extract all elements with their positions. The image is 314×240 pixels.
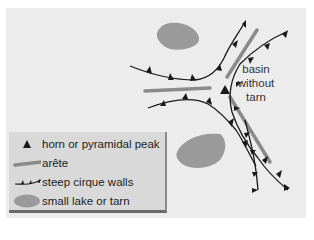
lake-icon: [13, 193, 41, 209]
legend-label: steep cirque walls: [42, 176, 133, 188]
arete-line-icon: [13, 155, 41, 171]
legend-label: small lake or tarn: [42, 195, 130, 207]
legend-item-lake: small lake or tarn: [9, 192, 167, 210]
horn-peak-icon: [220, 85, 230, 94]
legend-item-cirque: steep cirque walls: [9, 173, 167, 191]
basin-line-1: basin: [231, 62, 281, 76]
lake-top: [157, 23, 199, 50]
cirque-wall-icon: [13, 174, 41, 190]
basin-line-2: without: [231, 76, 281, 90]
arete-west: [145, 88, 210, 91]
lake-bottom: [176, 134, 225, 168]
legend-label: arête: [42, 157, 68, 169]
horn-triangle-icon: [13, 136, 41, 152]
legend-item-horn: horn or pyramidal peak: [9, 135, 167, 153]
legend-item-arete: arête: [9, 154, 167, 172]
legend-label: horn or pyramidal peak: [42, 138, 160, 150]
basin-line-3: tarn: [231, 90, 281, 104]
basin-annotation: basin without tarn: [231, 62, 281, 104]
legend: horn or pyramidal peak arête steep cirqu…: [9, 132, 167, 213]
